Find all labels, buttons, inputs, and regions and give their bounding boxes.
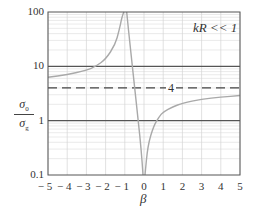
x-tick: 2 xyxy=(172,181,192,192)
x-axis-label: β xyxy=(140,192,146,205)
annotation-kr: kR << 1 xyxy=(193,21,237,34)
y-axis-label: σ0 σg xyxy=(14,97,34,133)
x-tick: − 2 xyxy=(93,181,113,192)
y-tick-10: 10 xyxy=(0,60,44,71)
reference-line-label: 4 xyxy=(166,82,176,94)
data-curve-2 xyxy=(145,96,240,176)
x-tick: 3 xyxy=(192,181,212,192)
y-tick-0.1: 0.1 xyxy=(0,169,44,180)
x-tick: − 3 xyxy=(73,181,93,192)
y-label-denominator-sub: g xyxy=(25,125,29,133)
x-tick: − 5 xyxy=(35,181,55,192)
x-tick: 1 xyxy=(153,181,173,192)
x-tick: − 1 xyxy=(112,181,132,192)
x-tick: 5 xyxy=(230,181,250,192)
y-tick-100: 100 xyxy=(0,6,44,17)
data-curve-1 xyxy=(127,12,143,175)
x-tick: − 4 xyxy=(54,181,74,192)
x-tick: 4 xyxy=(211,181,231,192)
y-label-numerator-sub: 0 xyxy=(25,105,29,113)
data-curve-0 xyxy=(48,12,124,77)
